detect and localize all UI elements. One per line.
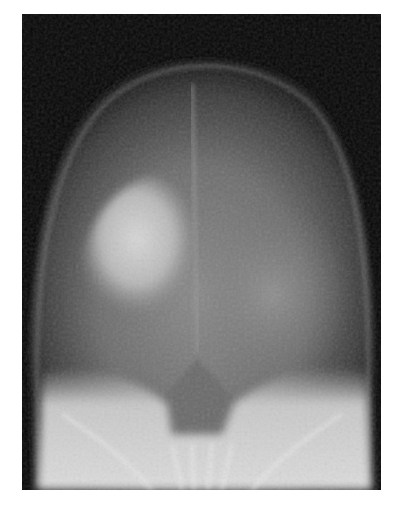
skull-radiograph	[22, 14, 381, 490]
xray-image	[22, 14, 381, 490]
